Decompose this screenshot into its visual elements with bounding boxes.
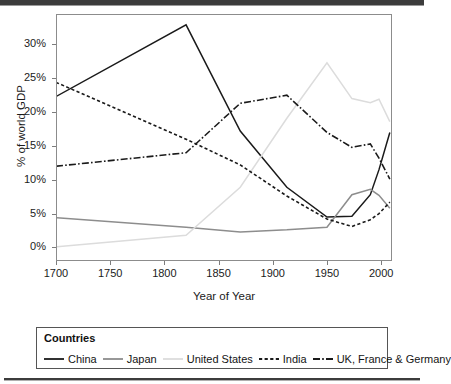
legend-item-label: UK, France & Germany <box>337 353 451 365</box>
series-line-uk-france-germany <box>56 95 390 179</box>
series-line-india <box>56 82 390 226</box>
x-tick-label: 1950 <box>302 268 352 279</box>
legend-line-swatch-dashed <box>258 354 280 364</box>
x-tick-label: 1700 <box>31 268 81 279</box>
chart-plot-area: 0%5%10%15%20%25%30% 17001750180018501900… <box>0 0 424 310</box>
legend-item[interactable]: China <box>43 351 97 367</box>
legend-item[interactable]: Japan <box>102 351 157 367</box>
y-tick-mark <box>52 78 56 79</box>
series-line-japan <box>56 189 390 232</box>
legend-items: ChinaJapanUnited StatesIndiaUK, France &… <box>43 351 387 367</box>
y-tick-mark <box>52 247 56 248</box>
y-tick-mark <box>52 112 56 113</box>
x-tick-label: 2000 <box>356 268 406 279</box>
series-line-united-states <box>56 63 390 247</box>
x-axis-title: Year of Year <box>56 290 392 302</box>
y-tick-mark <box>52 146 56 147</box>
legend-item[interactable]: UK, France & Germany <box>312 351 451 367</box>
series-line-china <box>56 25 390 217</box>
legend-item[interactable]: United States <box>162 351 253 367</box>
legend-title: Countries <box>44 332 95 344</box>
legend-item-label: China <box>68 353 97 365</box>
legend-item-label: United States <box>187 353 253 365</box>
x-tick-mark <box>219 261 220 265</box>
x-tick-label: 1900 <box>248 268 298 279</box>
y-axis-title: % of world GDP <box>15 61 27 191</box>
bottom-divider-bar <box>4 378 420 380</box>
y-tick-mark <box>52 180 56 181</box>
x-tick-mark <box>56 261 57 265</box>
legend-item-label: Japan <box>127 353 157 365</box>
legend-line-swatch-solid <box>162 354 184 364</box>
legend-line-swatch-solid <box>102 354 124 364</box>
x-tick-label: 1800 <box>139 268 189 279</box>
y-tick-mark <box>52 44 56 45</box>
x-tick-mark <box>381 261 382 265</box>
x-tick-mark <box>110 261 111 265</box>
x-tick-label: 1750 <box>85 268 135 279</box>
legend-item[interactable]: India <box>258 351 307 367</box>
x-tick-mark <box>164 261 165 265</box>
y-tick-label: 0% <box>0 241 46 252</box>
chart-series-canvas <box>0 0 424 310</box>
legend-box: Countries ChinaJapanUnited StatesIndiaUK… <box>36 327 388 369</box>
legend-item-label: India <box>283 353 307 365</box>
y-tick-label: 30% <box>0 38 46 49</box>
x-tick-mark <box>327 261 328 265</box>
y-tick-label: 5% <box>0 208 46 219</box>
x-tick-mark <box>273 261 274 265</box>
x-tick-label: 1850 <box>194 268 244 279</box>
y-tick-mark <box>52 214 56 215</box>
legend-line-swatch-dashdot <box>312 354 334 364</box>
legend-line-swatch-solid <box>43 354 65 364</box>
